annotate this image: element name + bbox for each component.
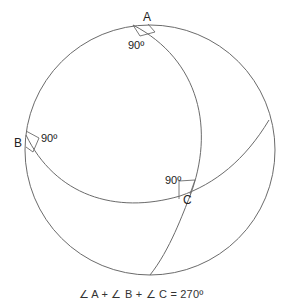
great-circle-arc-a: [133, 25, 201, 275]
right-angle-marker-b: [26, 131, 39, 152]
vertex-label-b: B: [14, 137, 22, 149]
angle-label-b: 90º: [41, 133, 57, 144]
sphere-outline: [25, 25, 275, 275]
angle-label-c: 90º: [165, 175, 181, 186]
angle-label-a: 90º: [128, 40, 144, 51]
angle-sum-caption: ∠ A + ∠ B + ∠ C = 270º: [0, 288, 282, 301]
great-circle-arc-b: [26, 120, 269, 203]
vertex-label-c: C: [183, 194, 192, 206]
vertex-label-a: A: [143, 11, 151, 23]
